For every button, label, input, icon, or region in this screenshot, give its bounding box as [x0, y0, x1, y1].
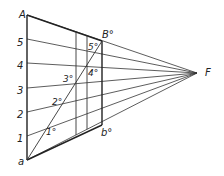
- label-A: A: [19, 10, 26, 20]
- label-F: F: [205, 68, 211, 78]
- label-5-deg: 5°: [88, 42, 98, 52]
- label-3-deg: 3°: [63, 74, 73, 84]
- label-5: 5: [17, 38, 23, 48]
- top-edge-line: [27, 15, 102, 41]
- label-3: 3: [17, 86, 23, 96]
- label-1: 1: [17, 134, 23, 144]
- perspective-diagram: [0, 0, 224, 176]
- label-1-deg: 1°: [46, 127, 56, 137]
- frame-lines: [27, 15, 102, 160]
- label-4: 4: [17, 61, 23, 71]
- label-4-deg: 4°: [88, 68, 98, 78]
- label-2-deg: 2°: [52, 97, 62, 107]
- label-2: 2: [17, 110, 23, 120]
- label-a: a: [18, 157, 24, 167]
- label-B: B°: [102, 30, 114, 40]
- label-b: b°: [101, 128, 112, 138]
